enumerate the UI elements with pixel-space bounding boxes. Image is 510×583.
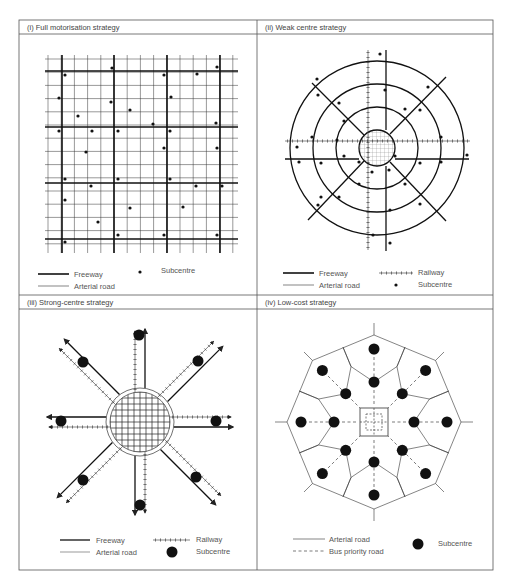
subcentre [78,357,89,368]
subcentre [426,85,429,88]
subcentre [397,388,408,399]
subcentre [310,135,313,138]
subcentre [116,129,119,132]
legend-bus: Bus priority road [329,547,384,556]
panel-strong-centre: Freeway Arterial road Railway Subcentre [47,329,233,558]
subcentre [439,135,442,138]
legend-subcentre: Subcentre [438,539,472,548]
panel-title-weak-centre: (ii) Weak centre strategy [265,23,346,32]
subcentre [418,202,421,205]
subcentre-legend-dot [394,283,397,286]
legend-railway: Railway [196,535,223,544]
subcentre [76,114,79,117]
subcentre-legend-dot [413,539,424,550]
legend-panel-iv: Arterial road Bus priority road Subcentr… [293,535,472,556]
subcentre [162,146,165,149]
subcentre [378,52,381,55]
subcentre [370,170,373,173]
subcentre-legend-dot [138,270,141,273]
subcentre [418,108,421,111]
legend-arterial: Arterial road [74,282,115,291]
subcentre [337,195,340,198]
subcentre [162,233,165,236]
subcentre [369,344,380,355]
subcentre [403,107,406,110]
subcentre-dots [56,330,222,511]
arterial-road-grid [45,55,238,253]
subcentre [316,203,319,206]
subcentre [442,417,453,428]
freeway-grid [45,55,238,253]
subcentre [84,150,87,153]
subcentre [369,490,380,501]
subcentre [220,184,223,187]
subcentre [116,233,119,236]
subcentre [215,65,218,68]
town-centre-grid [106,388,174,456]
subcentre [420,468,431,479]
subcentre [319,161,322,164]
legend-subcentre: Subcentre [196,547,230,556]
subcentre [78,475,89,486]
subcentre [371,233,374,236]
legend-panel-ii: Freeway Arterial road Railway Subcentre [283,268,452,290]
subcentre [329,417,340,428]
legend-subcentre: Subcentre [418,280,452,289]
subcentre [151,122,154,125]
subcentre [134,330,145,341]
panel-full-motorisation: Freeway Arterial road Subcentre [38,55,238,291]
subcentre [342,154,345,157]
subcentre [109,100,112,103]
subcentre [214,121,217,124]
subcentre [388,208,391,211]
legend-freeway: Freeway [96,536,125,545]
subcentre [191,472,202,483]
strategy-diagram-figure: (i) Full motorisation strategy (ii) Weak… [0,0,510,583]
subcentre [128,206,131,209]
legend-railway: Railway [418,268,445,277]
legend-subcentre: Subcentre [161,266,195,275]
subcentre [465,153,468,156]
legend-freeway: Freeway [74,270,103,279]
subcentre [96,220,99,223]
subcentre [340,388,351,399]
subcentre [439,160,442,163]
subcentre [56,416,67,427]
legend-panel-iii: Freeway Arterial road Railway Subcentre [60,535,230,558]
subcentre [335,138,338,141]
subcentre [420,365,431,376]
subcentre [195,72,198,75]
subcentre [317,468,328,479]
subcentre [403,182,406,185]
subcentre [215,233,218,236]
town-centre [360,408,388,436]
legend-panel-i: Freeway Arterial road Subcentre [38,266,195,291]
subcentre [63,198,66,201]
subcentre [317,365,328,376]
subcentre [409,417,420,428]
panel-weak-centre: Freeway Arterial road Railway Subcentre [283,50,470,290]
subcentre [340,445,351,456]
subcentre [316,93,319,96]
subcentre [418,161,421,164]
subcentre [295,145,298,148]
subcentre [63,73,66,76]
subcentre [135,500,146,511]
subcentre [90,129,93,132]
railway-legend-swatch [379,271,413,274]
subcentre [215,146,218,149]
legend-arterial: Arterial road [96,548,137,557]
legend-freeway: Freeway [319,269,348,278]
panel-title-low-cost: (iv) Low-cost strategy [265,298,337,307]
subcentre [315,77,318,80]
subcentre-legend-dot [167,547,178,558]
subcentre [297,160,300,163]
subcentre [369,377,380,388]
subcentre [128,108,131,111]
subcentre [397,445,408,456]
panel-low-cost: Arterial road Bus priority road Subcentr… [275,323,473,556]
subcentre [342,119,345,122]
subcentre [387,168,390,171]
subcentre [357,182,360,185]
panel-title-full-motorisation: (i) Full motorisation strategy [27,23,120,32]
